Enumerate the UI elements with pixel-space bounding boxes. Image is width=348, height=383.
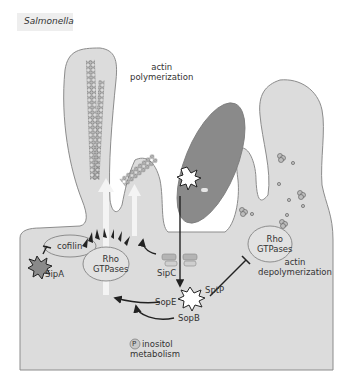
label-sopb: SopB [178, 313, 200, 323]
label-line: GTPases [257, 244, 293, 254]
label-sipa: SipA [45, 269, 64, 279]
label-line: metabolism [130, 349, 180, 359]
label-inositol-metabolism: inositol metabolism [130, 339, 180, 359]
label-rho-gtpases-right: Rho GTPases [257, 234, 293, 254]
label-line: inositol [130, 339, 180, 349]
label-sipc: SipC [157, 268, 176, 278]
label-line: Rho [93, 254, 129, 264]
label-line: GTPases [93, 264, 129, 274]
label-sope: SopE [155, 297, 176, 307]
label-line: depolymerization [258, 267, 332, 277]
label-actin-depolymerization: actin depolymerization [258, 257, 332, 277]
salmonella-invasion-diagram [0, 0, 348, 383]
label-line: actin [130, 62, 193, 72]
label-cofilin: cofilin [57, 241, 82, 251]
diagram-title: Salmonella [24, 16, 74, 26]
host-cell [20, 48, 333, 370]
label-actin-polymerization: actin polymerization [130, 62, 193, 82]
label-line: polymerization [130, 72, 193, 82]
label-line: Rho [257, 234, 293, 244]
label-line: actin [258, 257, 332, 267]
label-rho-gtpases-left: Rho GTPases [93, 254, 129, 274]
bacterial-inclusion [201, 188, 208, 192]
label-sptp: SptP [205, 285, 224, 295]
